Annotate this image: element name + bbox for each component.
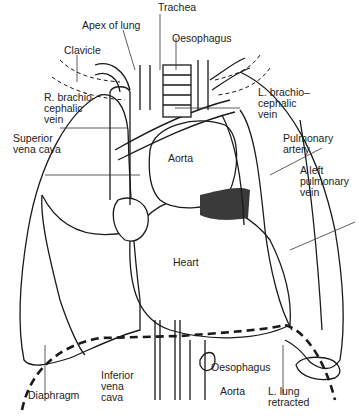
descending-aorta	[190, 340, 205, 400]
label-oesophagus-bottom: Oesophagus	[211, 362, 271, 373]
label-oesophagus-top: Oesophagus	[172, 33, 232, 44]
clavicle-left	[215, 55, 260, 80]
label-clavicle: Clavicle	[64, 45, 101, 56]
label-l-lung-retracted: L. lung retracted	[268, 386, 309, 408]
label-left-pulmonary-vein: A left pulmonary vein	[300, 165, 349, 198]
inferior-vena-cava	[155, 320, 160, 400]
label-pulmonary-artery: Pulmonary artery	[283, 133, 333, 155]
thorax-diagram: Trachea Apex of lung Oesophagus Clavicle…	[0, 0, 359, 416]
label-trachea: Trachea	[158, 2, 196, 13]
trachea	[163, 65, 191, 117]
label-apex-of-lung: Apex of lung	[82, 20, 140, 31]
label-superior-vena-cava: Superior vena cava	[13, 133, 61, 155]
label-diaphragm: Diaphragm	[28, 390, 79, 401]
label-aorta-top: Aorta	[168, 153, 193, 164]
clavicle-right	[60, 60, 120, 82]
heart	[130, 199, 291, 338]
label-aorta-bottom: Aorta	[220, 386, 245, 397]
label-l-brachiocephalic-vein: L. brachio– cephalic vein	[258, 87, 310, 120]
label-r-brachiocephalic-vein: R. brachio- cephalic vein	[44, 92, 95, 125]
diagram-drawing	[0, 0, 359, 416]
label-heart: Heart	[173, 257, 199, 268]
label-inferior-vena-cava: Inferior vena cava	[101, 370, 134, 403]
